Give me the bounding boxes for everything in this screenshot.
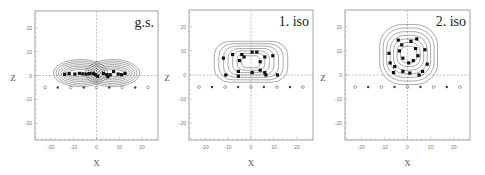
data-point [237,70,240,73]
asterisk-marker [393,86,395,88]
asterisk-marker [419,86,421,88]
x-tick-label: -10 [224,144,231,150]
data-point [243,55,246,58]
y-tick-label: 20 [336,24,342,30]
figure: -20-1001020-20-1001020XZg.s.-20-1001020-… [0,0,485,175]
data-point [224,73,227,76]
circle-marker [432,86,435,89]
data-point [393,65,396,68]
data-point [271,54,274,57]
panel-title: g.s. [135,15,154,30]
data-point [81,72,84,75]
x-tick-label: 10 [428,144,434,150]
panel-2: -20-1001020-20-1001020XZ1. iso [164,10,313,168]
data-point [88,72,91,75]
data-point [68,72,71,75]
data-point [401,70,404,73]
circle-marker [147,86,150,89]
data-point [112,70,115,73]
circle-marker [354,86,357,89]
data-point [263,55,266,58]
data-point [109,73,112,76]
panel-title: 2. iso [436,14,466,29]
data-point [117,72,120,75]
circle-marker [276,86,279,89]
data-point [85,72,88,75]
y-tick-label: -10 [335,96,342,102]
data-point [222,57,225,60]
y-tick-label: 0 [29,73,32,79]
data-point [123,72,126,75]
data-point [387,52,390,55]
data-point [102,72,105,75]
asterisk-marker [211,86,213,88]
data-point [389,61,392,64]
x-tick-label: 20 [451,144,457,150]
y-axis-label: Z [164,73,170,83]
y-tick-label: -20 [335,120,342,126]
data-point [423,48,426,51]
data-point [237,75,240,78]
x-tick-label: 20 [139,144,145,150]
asterisk-marker [237,86,239,88]
y-tick-label: -20 [25,120,32,126]
asterisk-marker [108,86,110,88]
data-point [264,73,267,76]
data-point [407,61,410,64]
x-axis-label: X [404,158,411,168]
circle-marker [224,86,227,89]
data-points [222,51,279,78]
x-axis-label: X [93,158,100,168]
circle-marker [69,86,72,89]
data-point [400,43,403,46]
y-tick-label: 10 [336,48,342,54]
data-point [259,60,262,63]
x-tick-label: -20 [201,144,208,150]
y-tick-label: -10 [25,96,32,102]
asterisk-marker [289,86,291,88]
data-point [415,37,418,40]
panel-title: 1. iso [279,14,309,29]
data-point [414,47,417,50]
data-point [416,54,419,57]
data-point [408,71,411,74]
plot-canvas: -20-1001020-20-1001020XZg.s.-20-1001020-… [0,0,485,175]
x-tick-label: -20 [47,144,54,150]
x-tick-label: 0 [406,144,409,150]
data-point [63,73,66,76]
circle-marker [301,86,304,89]
data-point [255,51,258,54]
data-point [409,40,412,43]
y-axis-label: Z [320,73,326,83]
data-point [392,71,395,74]
asterisk-marker [263,86,265,88]
data-point [251,51,254,54]
circle-marker [44,86,47,89]
y-tick-label: 0 [183,72,186,78]
data-point [426,63,429,66]
data-point [421,70,424,73]
y-tick-label: 10 [26,49,32,55]
asterisk-marker [446,86,448,88]
x-tick-label: 10 [116,144,122,150]
data-point [398,49,401,52]
circle-marker [458,86,461,89]
circle-marker [121,86,124,89]
data-point [78,72,81,75]
circle-marker [380,86,383,89]
data-point [73,72,76,75]
x-tick-label: 10 [271,144,277,150]
y-tick-label: 20 [180,24,186,30]
x-tick-label: -10 [70,144,77,150]
x-tick-label: 20 [294,144,300,150]
y-tick-label: -20 [179,120,186,126]
x-tick-label: 0 [95,144,98,150]
data-point [259,69,262,72]
data-point [231,53,234,56]
panel-1: -20-1001020-20-1001020XZg.s. [10,11,158,168]
y-tick-label: 0 [339,72,342,78]
data-point [276,73,279,76]
panel-3: -20-1001020-20-1001020XZ2. iso [320,10,470,168]
circle-marker [198,86,201,89]
asterisk-marker [83,86,85,88]
